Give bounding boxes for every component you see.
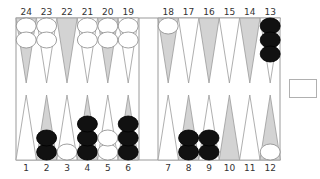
point-label-21: 21: [82, 7, 93, 17]
point-label-24: 24: [20, 7, 32, 17]
white-checker[interactable]: [118, 32, 138, 48]
white-checker[interactable]: [260, 144, 280, 160]
black-checker[interactable]: [77, 116, 97, 132]
white-checker[interactable]: [98, 32, 118, 48]
black-checker[interactable]: [37, 130, 57, 146]
point-label-23: 23: [41, 7, 52, 17]
black-checker[interactable]: [199, 130, 219, 146]
point-label-18: 18: [162, 7, 174, 17]
point-label-15: 15: [224, 7, 235, 17]
point-label-11: 11: [244, 163, 255, 173]
white-checker[interactable]: [77, 32, 97, 48]
point-label-13: 13: [264, 7, 275, 17]
point-label-9: 9: [206, 163, 212, 173]
point-label-17: 17: [183, 7, 194, 17]
point-label-1: 1: [23, 163, 29, 173]
backgammon-board: 242322212019181716151413123456789101112: [0, 0, 320, 179]
black-checker[interactable]: [179, 130, 199, 146]
point-label-6: 6: [125, 163, 131, 173]
point-label-19: 19: [122, 7, 134, 17]
black-checker[interactable]: [118, 116, 138, 132]
point-label-2: 2: [44, 163, 50, 173]
white-checker[interactable]: [16, 32, 36, 48]
white-checker[interactable]: [98, 130, 118, 146]
point-label-12: 12: [264, 163, 275, 173]
doubling-cube-box[interactable]: [289, 79, 317, 98]
point-label-7: 7: [165, 163, 171, 173]
point-label-14: 14: [244, 7, 256, 17]
point-label-8: 8: [186, 163, 192, 173]
point-label-20: 20: [102, 7, 114, 17]
point-label-16: 16: [203, 7, 215, 17]
black-checker[interactable]: [260, 46, 280, 62]
white-checker[interactable]: [57, 144, 77, 160]
point-label-22: 22: [61, 7, 72, 17]
point-label-5: 5: [105, 163, 111, 173]
point-label-4: 4: [85, 163, 91, 173]
white-checker[interactable]: [37, 32, 57, 48]
white-checker[interactable]: [158, 18, 178, 34]
point-label-3: 3: [64, 163, 70, 173]
point-label-10: 10: [224, 163, 236, 173]
